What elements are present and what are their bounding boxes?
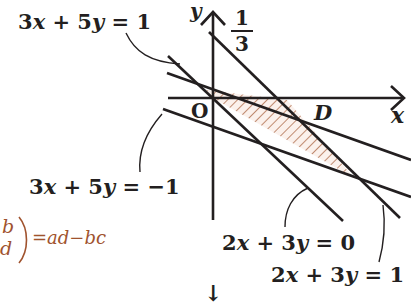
var-x: x [286,262,299,287]
fraction-one-third: 1 3 [231,8,253,54]
rhs: = 0 [308,230,355,255]
region-d-label: D [314,102,332,123]
diagram-canvas: 3x + 5y = 1 3x + 5y = −1 2x + 3y = 0 2x … [0,0,411,308]
down-arrow-icon: ↓ [204,282,222,304]
coef: + 3 [249,230,296,255]
origin-label: O [191,101,208,121]
det-entry-b: b [2,217,14,236]
label-2x-3y-1: 2x + 3y = 1 [271,264,404,285]
det-entry-d: d [0,239,12,258]
var-x: x [33,9,46,34]
fraction-denominator: 3 [231,34,253,54]
coef: + 5 [56,174,103,199]
leader-3x-5y-neg1 [140,114,162,172]
det-rhs: =ad−bc [32,229,106,247]
coef: 2 [271,262,286,287]
var-x: x [237,230,250,255]
leader-2x-3y-0 [285,188,308,227]
coef: + 3 [298,262,345,287]
var-y: y [345,262,357,287]
coef: 3 [18,9,33,34]
var-y: y [103,174,115,199]
coef: 2 [222,230,237,255]
determinant-fragment: b d =ad−bc [0,217,130,265]
var-y: y [296,230,308,255]
coef: + 5 [45,9,92,34]
label-3x-5y-neg1: 3x + 5y = −1 [29,176,180,197]
fraction-numerator: 1 [231,8,253,28]
leader-2x-3y-1 [379,205,384,262]
rhs: = −1 [115,174,179,199]
var-x: x [44,174,57,199]
var-y: y [92,9,104,34]
x-axis-label: x [391,104,404,126]
label-2x-3y-0: 2x + 3y = 0 [222,232,355,253]
y-axis-label: y [190,1,202,21]
rhs: = 1 [357,262,404,287]
label-3x-5y-1: 3x + 5y = 1 [18,11,151,32]
coef: 3 [29,174,44,199]
rhs: = 1 [104,9,151,34]
